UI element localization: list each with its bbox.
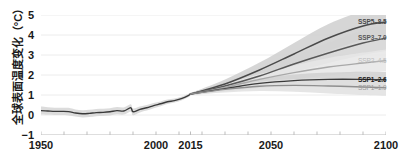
chart-svg bbox=[41, 15, 386, 135]
y-tick-label: 3 bbox=[14, 50, 34, 60]
y-tick-label: 4 bbox=[14, 30, 34, 40]
legend-label-ssp2-4-5: SSP2–4.5 bbox=[358, 57, 386, 65]
chart-root: 全球表面温度变化（°C） 543210−1 195020002015205021… bbox=[0, 0, 405, 166]
legend-label-ssp5-8-5: SSP5–8.5 bbox=[358, 18, 386, 26]
y-tick-label: 5 bbox=[14, 10, 34, 20]
scenario-legend: SSP5–8.5SSP3–7.0SSP2–4.5SSP1–2.6SSP1–1.9 bbox=[358, 0, 405, 166]
legend-label-ssp1-2-6: SSP1–2.6 bbox=[358, 76, 386, 84]
legend-label-ssp3-7-0: SSP3–7.0 bbox=[358, 34, 386, 42]
x-tick-label: 2000 bbox=[144, 139, 168, 151]
x-axis-tick-labels: 19502000201520502100 bbox=[0, 139, 405, 155]
x-tick-label: 2050 bbox=[259, 139, 283, 151]
x-tick-label: 2015 bbox=[178, 139, 202, 151]
x-tick-label: 1950 bbox=[29, 139, 53, 151]
plot-area bbox=[41, 15, 386, 135]
historical-line bbox=[41, 94, 191, 114]
y-tick-label: 2 bbox=[14, 70, 34, 80]
y-tick-label: 1 bbox=[14, 90, 34, 100]
uncertainty-band bbox=[41, 93, 191, 118]
y-tick-label: 0 bbox=[14, 110, 34, 120]
legend-label-ssp1-1-9: SSP1–1.9 bbox=[358, 84, 386, 92]
